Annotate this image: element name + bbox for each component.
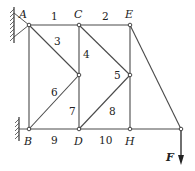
member-label-6: 6 bbox=[51, 86, 58, 98]
node-t bbox=[179, 127, 183, 131]
member-label-3: 3 bbox=[54, 35, 61, 47]
member-8 bbox=[79, 75, 130, 129]
member-label-2: 2 bbox=[102, 10, 109, 22]
member-et bbox=[130, 25, 181, 129]
member-6 bbox=[29, 75, 79, 129]
node-label-e: E bbox=[124, 8, 133, 21]
member-label-1: 1 bbox=[51, 10, 58, 22]
load-f: F bbox=[165, 129, 184, 165]
node-h bbox=[128, 127, 132, 131]
node-a bbox=[27, 23, 31, 27]
truss-diagram: F 12345678910ACEBDH bbox=[0, 0, 195, 171]
node-c bbox=[77, 23, 81, 27]
node-d bbox=[77, 127, 81, 131]
member-label-8: 8 bbox=[109, 105, 116, 117]
truss-nodes bbox=[27, 23, 183, 131]
truss-members bbox=[29, 25, 181, 129]
member-label-5: 5 bbox=[114, 69, 121, 81]
force-label-f: F bbox=[165, 151, 175, 164]
node-label-a: A bbox=[18, 8, 27, 21]
member-label-7: 7 bbox=[69, 105, 76, 117]
node-label-b: B bbox=[23, 135, 32, 148]
node-label-h: H bbox=[124, 135, 135, 148]
member-label-4: 4 bbox=[83, 48, 90, 60]
arrow-down-icon bbox=[178, 155, 184, 165]
node-label-c: C bbox=[74, 8, 83, 21]
member-label-9: 9 bbox=[51, 134, 58, 146]
node-e bbox=[128, 23, 132, 27]
member-3 bbox=[29, 25, 79, 75]
node-b bbox=[27, 127, 31, 131]
node-m2 bbox=[128, 73, 132, 77]
node-m1 bbox=[77, 73, 81, 77]
node-label-d: D bbox=[73, 135, 83, 148]
member-label-10: 10 bbox=[99, 134, 112, 146]
